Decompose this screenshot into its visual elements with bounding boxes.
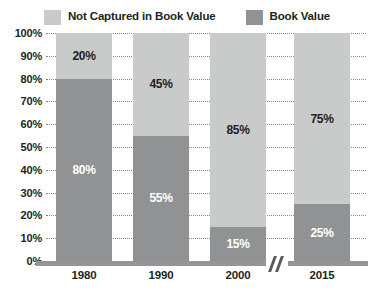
legend-swatch-light-gray-icon (44, 10, 61, 25)
bar-segment-book-value[interactable]: 25% (294, 204, 350, 261)
bar-segment-not-captured[interactable]: 45% (133, 33, 189, 136)
x-axis-tick-label-1980: 1980 (56, 270, 112, 282)
y-axis-tick-label: 60% (21, 119, 42, 130)
bar-segment-value-label: 85% (226, 124, 249, 136)
legend-swatch-dark-gray-icon (246, 10, 263, 25)
bar-segment-not-captured[interactable]: 85% (210, 33, 266, 227)
bar-1980[interactable]: 20%80% (56, 33, 112, 261)
bar-2000[interactable]: 85%15% (210, 33, 266, 261)
y-axis-tick-label: 70% (21, 96, 42, 107)
bar-1990[interactable]: 45%55% (133, 33, 189, 261)
y-axis-tick-label: 30% (21, 187, 42, 198)
legend-entry-book-value[interactable]: Book Value (246, 10, 331, 25)
x-axis-tick-label-1990: 1990 (133, 270, 189, 282)
y-axis-tick-labels: 0%10%20%30%40%50%60%70%80%90%100% (0, 33, 42, 261)
bar-segment-value-label: 45% (149, 78, 172, 90)
bar-segment-value-label: 25% (310, 227, 333, 239)
x-axis-tick-label-2015: 2015 (294, 270, 350, 282)
bar-series-group: 20%80%45%55%85%15%75%25% (46, 33, 366, 261)
y-axis-tick-label: 20% (21, 210, 42, 221)
bar-segment-not-captured[interactable]: 20% (56, 33, 112, 79)
bar-segment-book-value[interactable]: 15% (210, 227, 266, 261)
x-axis-line (36, 261, 368, 266)
bar-segment-value-label: 15% (226, 238, 249, 250)
x-axis-tick-label-2000: 2000 (210, 270, 266, 282)
bar-segment-value-label: 55% (149, 192, 172, 204)
x-axis-tick-labels: 1980199020002015 (46, 270, 366, 290)
bar-segment-not-captured[interactable]: 75% (294, 33, 350, 204)
y-axis-tick-label: 90% (21, 50, 42, 61)
y-axis-tick-label: 100% (15, 28, 42, 39)
chart-legend: Not Captured in Book Value Book Value (0, 6, 374, 28)
legend-entry-not-captured-in-book-value[interactable]: Not Captured in Book Value (44, 10, 216, 25)
legend-label-not-captured-in-book-value: Not Captured in Book Value (68, 11, 216, 23)
y-axis-tick-label: 40% (21, 164, 42, 175)
bar-segment-value-label: 80% (72, 164, 95, 176)
y-axis-tick-label: 50% (21, 142, 42, 153)
bar-2015[interactable]: 75%25% (294, 33, 350, 261)
y-axis-tick-label: 10% (21, 233, 42, 244)
bar-segment-book-value[interactable]: 80% (56, 79, 112, 261)
bar-segment-book-value[interactable]: 55% (133, 136, 189, 261)
legend-label-book-value: Book Value (270, 11, 331, 23)
y-axis-tick-label: 80% (21, 73, 42, 84)
bar-segment-value-label: 75% (310, 113, 333, 125)
stacked-bar-chart: Not Captured in Book Value Book Value 0%… (0, 0, 374, 298)
bar-segment-value-label: 20% (72, 50, 95, 62)
